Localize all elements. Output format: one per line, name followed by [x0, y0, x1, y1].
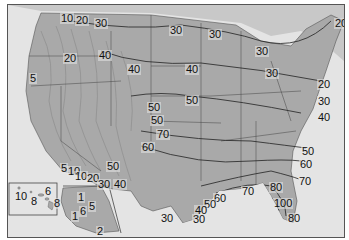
isoline-label: 5 [88, 201, 96, 212]
isoline-label: 30 [169, 25, 183, 36]
isoline-label: 8 [30, 196, 38, 207]
isoline-label: 40 [98, 50, 112, 61]
isoline-label: 5 [29, 73, 37, 84]
isoline-label: 50 [185, 95, 199, 106]
map-frame: 10 20 30 20 40 5 30 30 40 40 30 30 20 20… [7, 4, 345, 238]
isoline-label: 40 [317, 112, 331, 123]
isoline-label: 50 [301, 146, 315, 157]
isoline-label: 1 [77, 192, 85, 203]
isoline-label: 30 [208, 29, 222, 40]
isoline-label: 50 [147, 102, 161, 113]
isoline-label: 60 [141, 142, 155, 153]
isoline-label: 30 [317, 96, 331, 107]
isoline-label: 70 [156, 129, 170, 140]
isoline-label: 20 [75, 15, 89, 26]
isoline-label: 100 [273, 198, 293, 209]
isoline-label: 20 [63, 53, 77, 64]
isoline-label: 30 [97, 179, 111, 190]
isoline-label: 20 [317, 79, 331, 90]
isoline-label: 50 [106, 161, 120, 172]
isoline-label: 50 [150, 115, 164, 126]
isoline-label: 10 [60, 13, 74, 24]
isoline-label: 30 [192, 214, 206, 225]
isoline-label: 40 [185, 64, 199, 75]
isoline-label: 40 [127, 64, 141, 75]
isoline-label: 40 [113, 179, 127, 190]
isoline-label: 60 [299, 159, 313, 170]
isoline-label: 70 [298, 176, 312, 187]
isoline-label: 6 [44, 186, 52, 197]
isoline-label: 8 [53, 198, 61, 209]
isoline-label: 30 [94, 18, 108, 29]
isoline-label: 30 [255, 46, 269, 57]
isoline-label: 80 [269, 182, 283, 193]
isoline-label: 20 [334, 18, 345, 29]
isoline-label: 1 [71, 211, 79, 222]
isoline-label: 2 [96, 226, 104, 237]
isoline-label: 10 [14, 191, 28, 202]
isoline-label: 30 [265, 68, 279, 79]
isoline-label: 70 [241, 186, 255, 197]
isoline-label: 30 [160, 213, 174, 224]
isoline-label: 6 [79, 206, 87, 217]
isoline-label: 80 [287, 213, 301, 224]
